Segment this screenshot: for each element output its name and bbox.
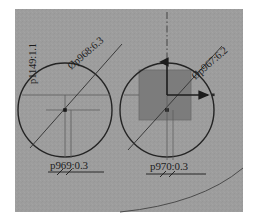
screenshot-root: p1149:1.1 Øp968:6.3 Øp967:6.2 p969:0.3 p…: [0, 0, 258, 221]
label-p970-dimension[interactable]: p970:0.3: [150, 161, 188, 172]
center-point-left: [63, 108, 67, 112]
axis-x-endpoint: [212, 94, 215, 97]
label-p1149[interactable]: p1149:1.1: [28, 43, 39, 84]
label-p969-dimension[interactable]: p969:0.3: [50, 160, 88, 171]
cad-drawing-canvas[interactable]: [0, 0, 258, 221]
drawing-sheet[interactable]: [15, 9, 243, 212]
